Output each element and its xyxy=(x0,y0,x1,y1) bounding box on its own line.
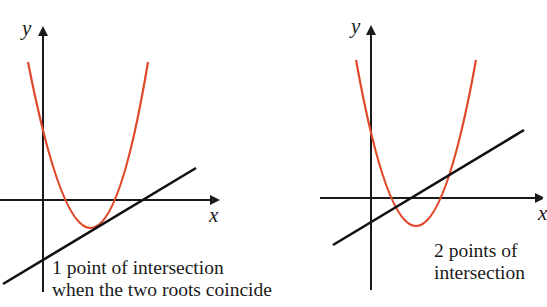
right-caption-line-2: intersection xyxy=(434,262,525,284)
left-y-axis-label: y xyxy=(22,18,31,39)
left-graph xyxy=(0,28,218,292)
left-caption: 1 point of intersection when the two roo… xyxy=(52,257,272,301)
right-x-axis-label: x xyxy=(538,203,547,224)
right-y-axis-label: y xyxy=(351,16,360,37)
right-caption-line-1: 2 points of xyxy=(434,240,525,262)
left-parabola xyxy=(28,62,148,228)
left-caption-line-1: 1 point of intersection xyxy=(52,257,272,279)
left-caption-line-2: when the two roots coincide xyxy=(52,279,272,301)
right-parabola xyxy=(356,60,476,226)
right-caption: 2 points of intersection xyxy=(434,240,525,284)
right-secant-line xyxy=(333,130,524,245)
left-x-axis-label: x xyxy=(209,205,218,226)
